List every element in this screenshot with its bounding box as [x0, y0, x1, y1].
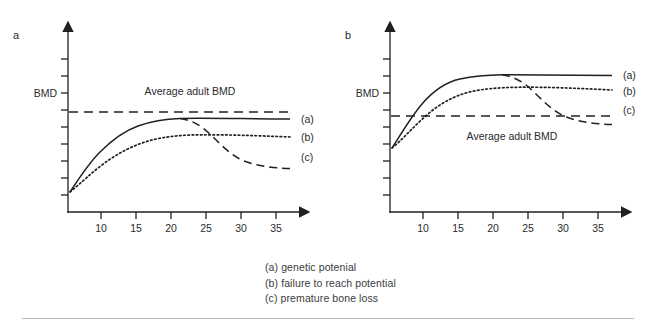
svg-text:(b): (b)	[623, 85, 636, 97]
caption-legend-list: (a) genetic potenial (b) failure to reac…	[265, 260, 396, 307]
svg-text:(a): (a)	[623, 69, 636, 81]
svg-text:25: 25	[200, 222, 212, 234]
curve-labels-a: (a) (b) (c)	[301, 113, 314, 163]
y-ticks-a	[61, 59, 68, 195]
panel-container: a	[0, 0, 656, 240]
caption-line-a: (a) genetic potenial	[265, 260, 396, 276]
reference-line-label-b: Average adult BMD	[467, 130, 558, 142]
svg-text:25: 25	[522, 222, 534, 234]
svg-text:30: 30	[235, 222, 247, 234]
figure-caption: (a) genetic potenial (b) failure to reac…	[0, 240, 656, 310]
y-axis-label-a: BMD	[34, 87, 58, 99]
curve-a-genetic-potential	[70, 118, 290, 192]
svg-text:15: 15	[130, 222, 142, 234]
x-tick-labels-a: 10 15 20 25 30 35	[95, 222, 282, 234]
svg-text:(c): (c)	[301, 151, 313, 163]
bottom-divider	[22, 318, 634, 319]
bmd-figure: a	[0, 0, 656, 331]
y-ticks-b	[383, 59, 390, 195]
svg-text:30: 30	[557, 222, 569, 234]
svg-text:(c): (c)	[623, 104, 635, 116]
panel-label-b: b	[345, 29, 351, 41]
caption-line-b: (b) failure to reach potential	[265, 276, 396, 292]
panel-label-a: a	[13, 29, 20, 41]
chart-panel-a: a	[0, 0, 328, 240]
x-tick-labels-b: 10 15 20 25 30 35	[417, 222, 604, 234]
svg-text:10: 10	[95, 222, 107, 234]
y-axis-label-b: BMD	[356, 87, 380, 99]
svg-text:(a): (a)	[301, 113, 314, 125]
svg-text:10: 10	[417, 222, 429, 234]
caption-line-c: (c) premature bone loss	[265, 291, 396, 307]
curve-labels-b: (a) (b) (c)	[623, 69, 636, 116]
reference-line-label-a: Average adult BMD	[145, 85, 236, 97]
curve-c-premature-bone-loss	[180, 119, 290, 169]
x-ticks-b	[423, 212, 598, 219]
curve-c-premature-bone-loss	[502, 75, 612, 125]
x-ticks-a	[101, 212, 276, 219]
svg-text:20: 20	[165, 222, 177, 234]
curve-b-failure-to-reach-potential	[70, 135, 290, 192]
chart-panel-b: b	[328, 0, 656, 240]
svg-text:35: 35	[592, 222, 604, 234]
svg-text:15: 15	[452, 222, 464, 234]
svg-text:(b): (b)	[301, 131, 314, 143]
svg-text:20: 20	[487, 222, 499, 234]
svg-text:35: 35	[270, 222, 282, 234]
